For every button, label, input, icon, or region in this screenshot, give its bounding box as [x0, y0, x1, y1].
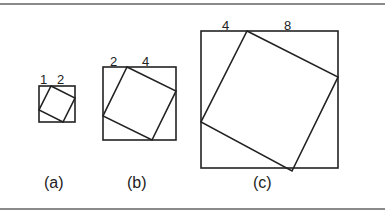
panel-a-caption: (a)	[44, 175, 64, 191]
panel-a-label-short: 1	[40, 73, 47, 86]
panel-b-label-short: 2	[110, 55, 117, 68]
inner-tilted-square	[103, 67, 176, 140]
panel-c-caption: (c)	[253, 175, 272, 191]
panel-b	[103, 67, 176, 140]
inner-tilted-square	[201, 31, 338, 171]
panel-c-label-long: 8	[284, 19, 291, 32]
panel-c-label-short: 4	[222, 19, 229, 32]
outer-square	[103, 67, 176, 140]
panel-a-label-long: 2	[57, 73, 64, 86]
panel-c	[201, 31, 338, 171]
panel-a	[39, 86, 75, 122]
outer-square	[39, 86, 75, 122]
inner-tilted-square	[39, 86, 75, 122]
panel-b-label-long: 4	[142, 55, 149, 68]
panel-b-caption: (b)	[127, 175, 147, 191]
outer-square	[201, 31, 338, 168]
